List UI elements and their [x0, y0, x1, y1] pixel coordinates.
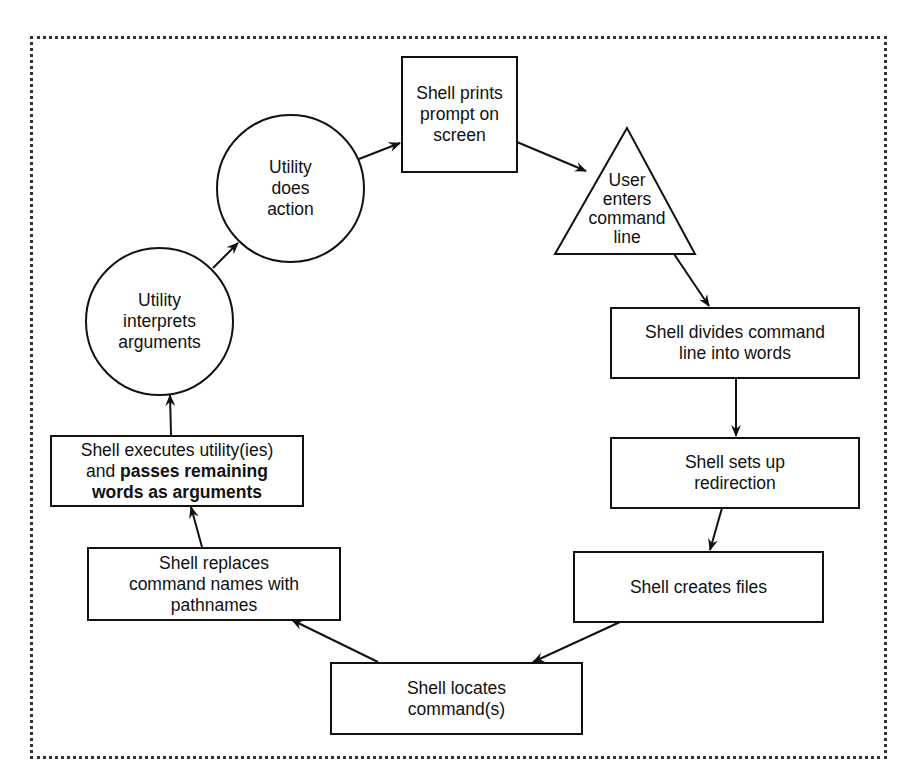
node-label-line: Shell locates: [407, 678, 506, 699]
node-label-normal: and: [86, 461, 120, 481]
node-label-line: User: [589, 171, 666, 190]
arrow-interprets-to-action: [213, 243, 238, 268]
arrow-executes-to-interprets: [170, 395, 171, 435]
node-label-line: enters: [589, 190, 666, 209]
node-label-line: Shell prints: [416, 83, 503, 104]
arrow-action-to-prompt: [359, 143, 400, 159]
node-label-line: line: [589, 228, 666, 247]
node-shell-locates-commands: Shell locates command(s): [330, 662, 583, 735]
arrow-creates-to-locates: [533, 622, 620, 662]
node-label-bold-line: words as arguments: [81, 482, 274, 503]
node-utility-does-action: Utility does action: [216, 114, 365, 263]
node-shell-replaces-command-names: Shell replaces command names with pathna…: [87, 547, 341, 621]
node-label-line: command: [589, 209, 666, 228]
node-label-line: Shell replaces: [129, 553, 299, 574]
node-shell-prints-prompt: Shell prints prompt on screen: [401, 56, 518, 173]
node-label-line: does: [267, 178, 314, 199]
node-label-line: pathnames: [129, 595, 299, 616]
node-user-enters-command-line: User enters command line: [573, 166, 681, 252]
shell-cycle-diagram: Shell prints prompt on screen User enter…: [0, 0, 914, 782]
node-label-line: prompt on: [416, 104, 503, 125]
node-label-line: Utility: [267, 157, 314, 178]
node-shell-executes-utilities: Shell executes utility(ies) and passes r…: [50, 435, 304, 507]
node-label-line: Shell divides command: [645, 322, 825, 343]
node-label-line: redirection: [685, 473, 785, 494]
arrow-replaces-to-executes: [191, 507, 202, 547]
node-label-line: command names with: [129, 574, 299, 595]
node-label-line: Utility: [118, 290, 201, 311]
node-label-line: interprets: [118, 311, 201, 332]
node-shell-sets-up-redirection: Shell sets up redirection: [610, 437, 860, 509]
node-label-line: screen: [416, 125, 503, 146]
node-label-line-mixed: and passes remaining: [81, 461, 274, 482]
node-label-bold: passes remaining: [120, 461, 268, 481]
node-shell-creates-files: Shell creates files: [573, 551, 824, 623]
node-label-line: command(s): [407, 699, 506, 720]
node-utility-interprets-arguments: Utility interprets arguments: [85, 247, 234, 396]
node-label-line: Shell sets up: [685, 452, 785, 473]
node-label-line: action: [267, 199, 314, 220]
node-label-line: arguments: [118, 332, 201, 353]
arrow-redirection-to-creates: [710, 508, 722, 550]
node-label-line: line into words: [645, 343, 825, 364]
node-label-line: Shell creates files: [630, 577, 767, 598]
arrow-locates-to-replaces: [292, 620, 378, 662]
arrow-user-to-divides: [674, 254, 709, 306]
node-shell-divides-command-line: Shell divides command line into words: [610, 307, 860, 379]
node-label-line: Shell executes utility(ies): [81, 440, 274, 461]
